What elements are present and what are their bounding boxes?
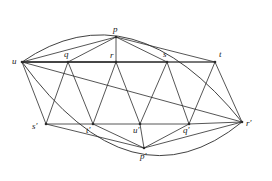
vertex-label-qp: q′ xyxy=(183,126,189,135)
graph-figure: upqrsts′t′u′q′r′p′ xyxy=(0,0,272,181)
vertices-layer xyxy=(21,36,244,150)
edge-up-pp xyxy=(140,124,144,148)
vertex-label-rp: r′ xyxy=(246,119,251,128)
edge-s-qp xyxy=(167,62,189,124)
edge-u-p xyxy=(22,37,116,62)
edge-p-q xyxy=(68,37,116,62)
vertex-label-sp: s′ xyxy=(32,122,37,131)
boundary-arc-top-arc xyxy=(22,35,242,122)
vertex-dot-up xyxy=(139,123,142,126)
edge-sp-pp xyxy=(46,124,144,148)
edge-t-rp xyxy=(215,62,242,122)
graph-canvas xyxy=(0,0,272,181)
vertex-label-r: r xyxy=(110,51,114,60)
vertex-dot-r xyxy=(115,61,118,64)
vertex-dot-p xyxy=(115,36,118,39)
vertex-label-s: s xyxy=(163,50,167,59)
edge-u-sp xyxy=(22,62,46,124)
vertex-label-q: q xyxy=(64,50,69,59)
vertex-dot-pp xyxy=(143,147,146,150)
vertex-dot-tp xyxy=(92,123,95,126)
edge-u-rp xyxy=(22,62,242,122)
vertex-dot-t xyxy=(214,61,217,64)
vertex-dot-u xyxy=(21,61,24,64)
vertex-label-t: t xyxy=(219,50,222,59)
edge-s-up xyxy=(140,62,167,124)
vertex-dot-rp xyxy=(241,121,244,124)
edges-layer xyxy=(22,37,242,148)
vertex-label-tp: t′ xyxy=(86,126,90,135)
vertex-dot-q xyxy=(67,61,70,64)
vertex-dot-sp xyxy=(45,123,48,126)
edge-r-tp xyxy=(93,62,116,124)
vertex-label-u: u xyxy=(12,57,17,66)
vertex-dot-s xyxy=(166,61,169,64)
edge-rp-pp xyxy=(144,122,242,148)
edge-q-tp xyxy=(68,62,93,124)
vertex-label-p: p xyxy=(113,25,118,34)
vertex-label-pp: p′ xyxy=(140,152,146,161)
vertex-label-up: u′ xyxy=(133,126,139,135)
